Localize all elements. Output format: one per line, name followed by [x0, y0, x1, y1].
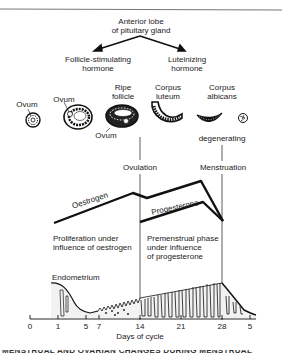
tick-label-14: 14	[133, 322, 147, 331]
tick-label-5-next: 5	[245, 322, 255, 331]
ovum-label-3: Ovum	[94, 131, 118, 140]
endometrium-label: Endometrium	[52, 273, 100, 282]
primordial-follicle-icon	[26, 113, 40, 127]
ovulation-label: Ovulation	[118, 163, 162, 172]
pituitary-title: Anterior lobe of pituitary gland	[100, 17, 182, 35]
ovum-label-1: Ovum	[15, 100, 39, 109]
tick-label-28: 28	[215, 322, 229, 331]
figure-caption-partial: MENSTRUAL AND OVARIAN CHANGES DURING MEN…	[0, 350, 282, 356]
tick-label-21: 21	[174, 322, 188, 331]
fsh-label: Follicle-stimulating hormone	[58, 55, 138, 73]
axis-label: Days of cycle	[110, 332, 170, 341]
tick-label-0: 0	[25, 322, 35, 331]
tick-label-7: 7	[94, 322, 104, 331]
ripe-follicle-label: Ripe follicle	[108, 83, 138, 101]
ripe-follicle-icon	[106, 105, 138, 127]
ovum-label-2: Ovum	[52, 95, 76, 104]
menstruation-label: Menstruation	[196, 163, 250, 172]
tick-label-1: 1	[53, 322, 63, 331]
corpus-luteum-icon	[152, 102, 182, 122]
degenerating-label: degenerating	[198, 134, 246, 143]
corpus-albicans-icon	[197, 113, 248, 123]
menstrual-cycle-diagram	[0, 0, 282, 356]
corpus-albicans-label: Corpus albicans	[203, 83, 241, 101]
lh-label: Luteinizing hormone	[160, 55, 214, 73]
tick-label-5: 5	[81, 322, 91, 331]
growing-follicle-icon	[64, 105, 92, 129]
pituitary-arrows	[94, 36, 185, 51]
proliferation-phase-label: Proliferation under influence of oestrog…	[53, 234, 132, 252]
top-rule	[0, 9, 282, 10]
corpus-luteum-label: Corpus luteum	[152, 83, 184, 101]
premenstrual-phase-label: Premenstrual phase under influence of pr…	[147, 234, 219, 261]
endometrium-profile	[51, 283, 256, 318]
